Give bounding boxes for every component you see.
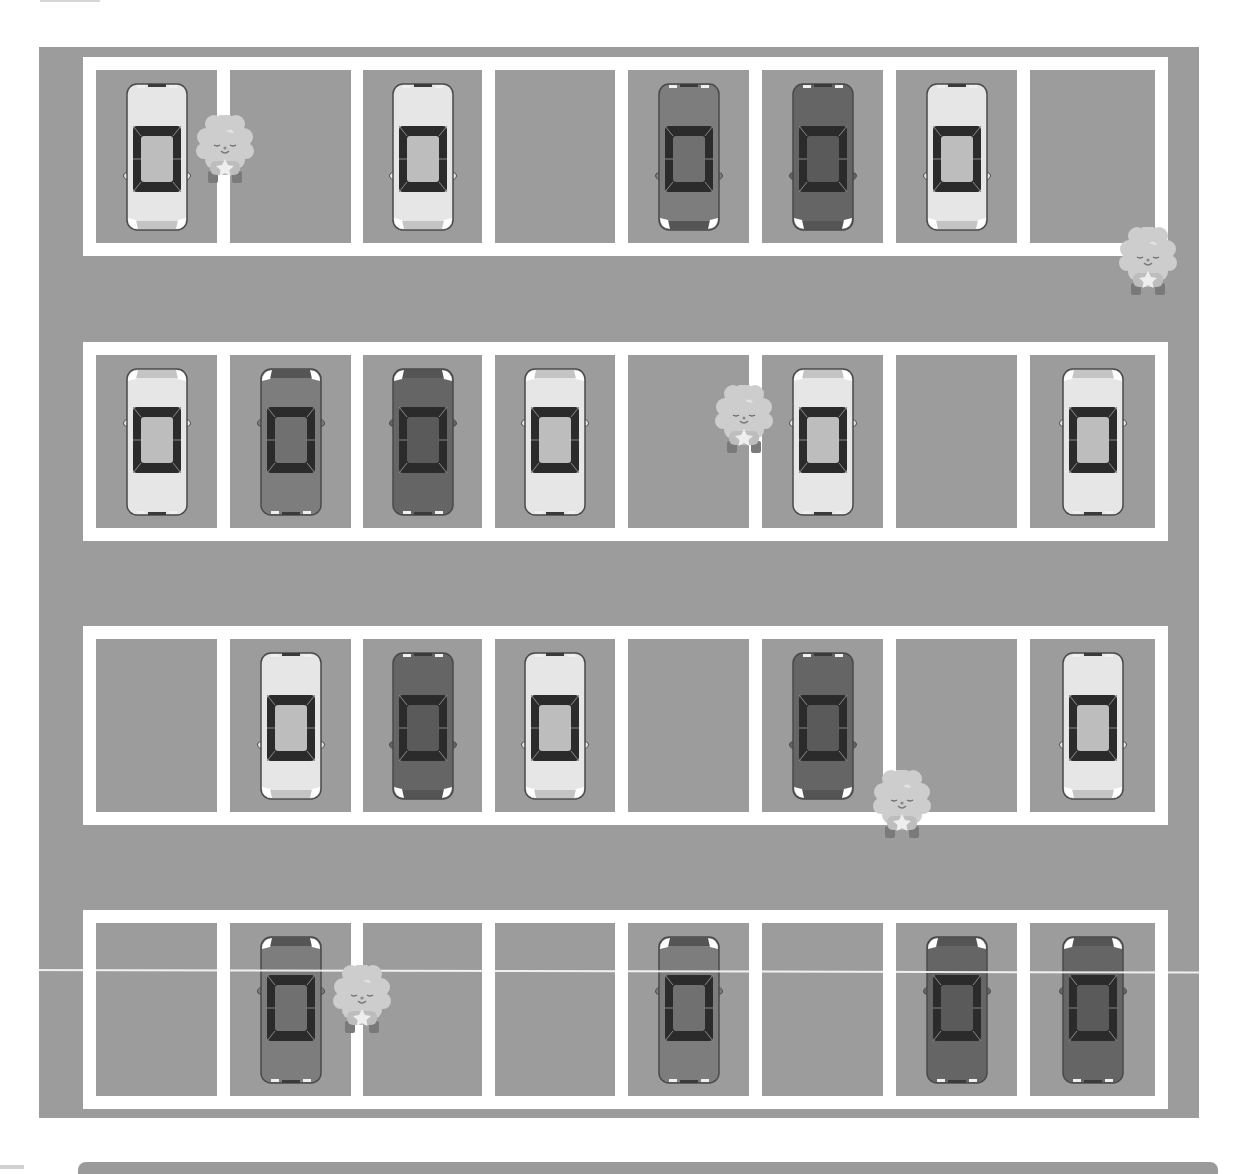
occupied-stall — [363, 355, 482, 528]
mascot-character — [1117, 227, 1179, 297]
mascot-icon — [871, 770, 933, 840]
car-dark — [924, 935, 990, 1085]
occupied-stall — [495, 355, 615, 528]
car-icon — [258, 651, 324, 801]
parking-row-2 — [83, 342, 1168, 541]
car-icon — [924, 935, 990, 1085]
empty-stall — [96, 639, 217, 812]
occupied-stall — [896, 923, 1017, 1096]
parking-row-3 — [83, 626, 1168, 825]
car-icon — [790, 82, 856, 232]
occupied-stall — [1030, 639, 1155, 812]
car-icon — [390, 651, 456, 801]
car-mid — [258, 935, 324, 1085]
bottom-bar — [78, 1162, 1218, 1174]
car-dark — [390, 367, 456, 517]
car-light — [790, 367, 856, 517]
car-light — [522, 651, 588, 801]
mascot-icon — [331, 965, 393, 1035]
occupied-stall — [230, 639, 351, 812]
car-icon — [390, 367, 456, 517]
occupied-stall — [762, 639, 883, 812]
car-icon — [522, 651, 588, 801]
car-light — [258, 651, 324, 801]
occupied-stall — [96, 355, 217, 528]
car-icon — [390, 82, 456, 232]
car-icon — [1060, 367, 1126, 517]
occupied-stall — [363, 639, 482, 812]
empty-stall — [96, 923, 217, 1096]
occupied-stall — [230, 355, 351, 528]
mascot-character — [331, 965, 393, 1035]
empty-stall — [762, 923, 883, 1096]
car-light — [1060, 367, 1126, 517]
car-icon — [124, 367, 190, 517]
empty-stall — [1030, 70, 1155, 243]
car-icon — [924, 82, 990, 232]
empty-stall — [495, 923, 615, 1096]
car-dark — [1060, 935, 1126, 1085]
empty-stall — [896, 355, 1017, 528]
mascot-icon — [1117, 227, 1179, 297]
empty-stall — [495, 70, 615, 243]
car-icon — [656, 82, 722, 232]
parking-lot — [39, 47, 1199, 1118]
mascot-icon — [194, 115, 256, 185]
bottom-left-mark — [0, 1165, 24, 1169]
car-light — [1060, 651, 1126, 801]
car-icon — [1060, 651, 1126, 801]
car-light — [924, 82, 990, 232]
car-dark — [390, 651, 456, 801]
mascot-character — [713, 385, 775, 455]
empty-stall — [628, 639, 749, 812]
car-light — [390, 82, 456, 232]
car-icon — [656, 935, 722, 1085]
occupied-stall — [628, 70, 749, 243]
occupied-stall — [1030, 923, 1155, 1096]
car-icon — [1060, 935, 1126, 1085]
parking-row-4 — [83, 910, 1168, 1109]
car-icon — [124, 82, 190, 232]
car-icon — [258, 367, 324, 517]
car-light — [124, 367, 190, 517]
mascot-character — [194, 115, 256, 185]
occupied-stall — [628, 923, 749, 1096]
occupied-stall — [1030, 355, 1155, 528]
car-light — [124, 82, 190, 232]
car-dark — [790, 651, 856, 801]
mascot-character — [871, 770, 933, 840]
mascot-icon — [713, 385, 775, 455]
car-mid — [258, 367, 324, 517]
car-mid — [656, 935, 722, 1085]
car-light — [522, 367, 588, 517]
car-icon — [790, 651, 856, 801]
car-icon — [522, 367, 588, 517]
car-mid — [656, 82, 722, 232]
car-icon — [258, 935, 324, 1085]
occupied-stall — [363, 70, 482, 243]
top-edge-mark — [40, 0, 100, 2]
occupied-stall — [896, 70, 1017, 243]
occupied-stall — [762, 355, 883, 528]
car-dark — [790, 82, 856, 232]
car-icon — [790, 367, 856, 517]
occupied-stall — [495, 639, 615, 812]
occupied-stall — [762, 70, 883, 243]
